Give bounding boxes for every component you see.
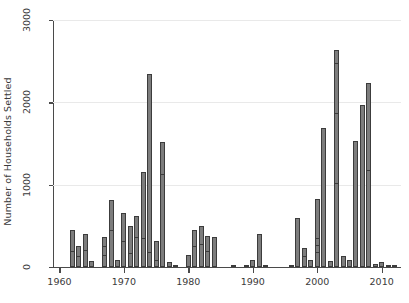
bar-2000 [315,199,320,267]
gridline-1000 [53,185,401,186]
bar-1965 [89,261,94,267]
bar-1962 [70,230,75,267]
bar-segment-divider [110,230,113,231]
bar-segment-divider [161,174,164,175]
bar-segment-divider [103,246,106,247]
bar-segment-divider [335,183,338,184]
bar-1977 [167,262,172,267]
bar-2003 [334,50,339,267]
bar-2012 [392,265,397,267]
x-tick-label-2010: 2010 [362,276,402,288]
y-tick-label-3000: 3000 [21,2,33,38]
bar-1992 [263,265,268,267]
x-tick-label-1970: 1970 [104,276,144,288]
y-tick-mark-1000 [49,185,53,186]
bar-2011 [386,265,391,267]
bar-1976 [160,142,165,267]
bar-1982 [199,226,204,267]
bar-segment-divider [84,250,87,251]
bar-2001 [321,128,326,267]
x-tick-mark-1970 [124,268,125,273]
chart-figure: Number of Households Settled 01000200030… [0,0,409,303]
bar-1963 [76,246,81,267]
y-tick-label-2000: 2000 [21,84,33,120]
bar-1987 [231,265,236,267]
y-tick-mark-3000 [49,20,53,21]
bar-1964 [83,234,88,267]
bar-segment-divider [200,244,203,245]
bar-1981 [192,230,197,267]
bar-1978 [173,265,178,267]
bar-segment-divider [367,170,370,171]
x-tick-label-2000: 2000 [297,276,337,288]
bar-1989 [244,265,249,267]
y-axis-title: Number of Households Settled [0,0,16,303]
bar-segment-divider [71,251,74,252]
bar-2005 [347,260,352,267]
gridline-3000 [53,20,401,21]
bar-segment-divider [316,245,319,246]
bar-segment-divider [77,256,80,257]
bar-1990 [250,260,255,267]
bar-2010 [379,262,384,267]
bar-segment-divider [148,252,151,253]
bar-1969 [115,260,120,267]
bar-segment-divider [335,63,338,64]
bar-2006 [353,141,358,267]
bar-segment-divider [155,260,158,261]
bar-1998 [302,248,307,267]
bar-segment-divider [142,238,145,239]
bar-1970 [121,213,126,267]
x-tick-mark-1990 [253,268,254,273]
x-tick-mark-2000 [317,268,318,273]
bar-1968 [109,200,114,268]
bar-segment-divider [135,237,138,238]
bar-1971 [128,226,133,267]
y-tick-label-1000: 1000 [21,167,33,203]
bar-1967 [102,237,107,267]
bar-1975 [154,241,159,267]
bar-1980 [186,255,191,267]
bar-segment-divider [206,251,209,252]
bar-1999 [308,260,313,267]
bar-segment-divider [103,255,106,256]
y-tick-label-0: 0 [21,249,33,285]
bar-1973 [141,172,146,268]
bar-1984 [212,237,217,267]
x-axis-line [53,267,401,268]
bar-1974 [147,74,152,267]
bar-segment-divider [335,113,338,114]
bar-2004 [341,256,346,267]
bar-2008 [366,83,371,267]
x-tick-mark-1980 [188,268,189,273]
bar-segment-divider [316,252,319,253]
bar-2007 [360,105,365,267]
bar-segment-divider [122,241,125,242]
bar-segment-divider [303,256,306,257]
x-tick-label-1990: 1990 [233,276,273,288]
x-tick-mark-1960 [59,268,60,273]
bar-2009 [373,264,378,267]
x-tick-label-1980: 1980 [168,276,208,288]
bar-1983 [205,236,210,267]
plot-area: 0100020003000 196019701980199020002010 [53,20,401,267]
x-tick-mark-2010 [382,268,383,273]
gridline-2000 [53,102,401,103]
y-axis-line [53,20,54,267]
bar-segment-divider [193,246,196,247]
x-tick-label-1960: 1960 [39,276,79,288]
y-tick-mark-0 [49,267,53,268]
bar-segment-divider [316,238,319,239]
bar-1996 [289,265,294,267]
bar-2002 [328,261,333,267]
y-tick-mark-2000 [49,102,53,103]
bar-1972 [134,216,139,267]
bar-segment-divider [129,253,132,254]
bar-1991 [257,234,262,267]
bar-1997 [295,218,300,267]
